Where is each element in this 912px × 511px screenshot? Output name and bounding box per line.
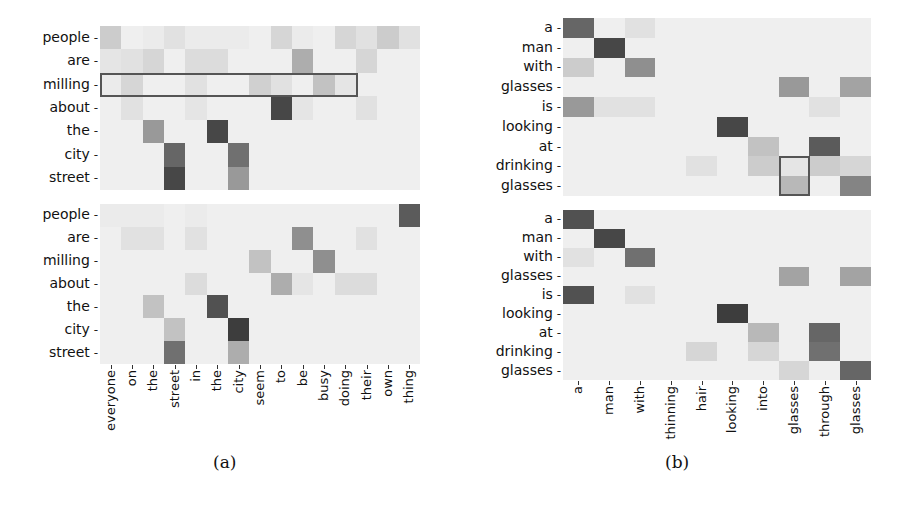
heatmap-cell (686, 229, 717, 248)
heatmap-cell (313, 318, 334, 341)
heatmap-cell (249, 273, 270, 296)
column-label: in (188, 370, 203, 450)
heatmap-cell (748, 229, 779, 248)
heatmap-cell (335, 49, 356, 72)
heatmap-cell (779, 267, 810, 286)
heatmap-cell (717, 267, 748, 286)
heatmap-cell (207, 318, 228, 341)
heatmap-cell (809, 342, 840, 361)
heatmap-cell (563, 248, 594, 267)
heatmap-cell (228, 96, 249, 119)
heatmap-cell (271, 120, 292, 143)
heatmap-cell (207, 143, 228, 166)
heatmap-cell (249, 295, 270, 318)
heatmap-cell (121, 73, 142, 96)
heatmap-cell (399, 73, 420, 96)
heatmap-cell (356, 295, 377, 318)
heatmap-cell (271, 227, 292, 250)
heatmap-cell (313, 120, 334, 143)
heatmap-cell (207, 273, 228, 296)
heatmap-cell (313, 273, 334, 296)
heatmap-cell (840, 304, 871, 323)
heatmap-cell (594, 323, 625, 342)
heatmap-cell (356, 96, 377, 119)
heatmap-cell (121, 167, 142, 190)
row-label: is (542, 99, 561, 113)
heatmap-cell (356, 167, 377, 190)
heatmap-cell (228, 341, 249, 364)
heatmap-cell (143, 341, 164, 364)
heatmap-cell (655, 117, 686, 137)
row-label: milling (43, 253, 98, 267)
heatmap-cell (809, 229, 840, 248)
heatmap-cell (809, 267, 840, 286)
heatmap-cell (164, 204, 185, 227)
heatmap-cell (779, 248, 810, 267)
column-label: the (209, 370, 224, 450)
x-tick (388, 365, 389, 369)
heatmap-cell (292, 120, 313, 143)
heatmap-cell (313, 295, 334, 318)
heatmap-cell (121, 250, 142, 273)
heatmap-cell (207, 120, 228, 143)
heatmap-cell (313, 341, 334, 364)
heatmap-cell (100, 273, 121, 296)
heatmap-cell (121, 143, 142, 166)
heatmap-cell (313, 49, 334, 72)
heatmap-cell (335, 295, 356, 318)
heatmap-cell (594, 77, 625, 97)
heatmap-cell (748, 361, 779, 380)
heatmap-cell (717, 248, 748, 267)
heatmap-cell (377, 73, 398, 96)
column-label: be (295, 370, 310, 450)
heatmap-cell (655, 58, 686, 78)
heatmap-cell (100, 341, 121, 364)
heatmap-cell (779, 361, 810, 380)
row-label: street (49, 170, 98, 184)
heatmap-cell (399, 49, 420, 72)
heatmap-cell (625, 176, 656, 196)
heatmap-cell (809, 304, 840, 323)
row-label: are (67, 53, 98, 67)
heatmap-cell (563, 58, 594, 78)
row-label: is (542, 287, 561, 301)
heatmap-cell (185, 341, 206, 364)
heatmap-cell (121, 318, 142, 341)
heatmap-cell (655, 176, 686, 196)
heatmap-cell (563, 137, 594, 157)
heatmap-cell (313, 96, 334, 119)
heatmap-cell (143, 167, 164, 190)
heatmap-cell (399, 143, 420, 166)
column-label: with (632, 386, 647, 466)
heatmap-cell (100, 73, 121, 96)
heatmap-cell (249, 341, 270, 364)
heatmap-cell (840, 18, 871, 38)
row-label: the (67, 123, 98, 137)
heatmap-cell (399, 120, 420, 143)
heatmap-cell (164, 120, 185, 143)
row-label: looking (502, 306, 561, 320)
heatmap-cell (717, 117, 748, 137)
heatmap-cell (356, 26, 377, 49)
heatmap-cell (717, 342, 748, 361)
x-tick (367, 365, 368, 369)
heatmap-cell (249, 227, 270, 250)
heatmap-cell (655, 342, 686, 361)
heatmap-cell (563, 210, 594, 229)
heatmap-cell (335, 26, 356, 49)
heatmap-cell (271, 73, 292, 96)
row-label: city (64, 322, 98, 336)
heatmap-cell (207, 73, 228, 96)
heatmap-cell (185, 49, 206, 72)
heatmap-cell (717, 304, 748, 323)
heatmap-cell (779, 304, 810, 323)
heatmap-cell (164, 227, 185, 250)
heatmap-cell (143, 204, 164, 227)
x-tick (825, 381, 826, 385)
heatmap-cell (335, 143, 356, 166)
heatmap-cell (655, 18, 686, 38)
row-label: about (49, 100, 98, 114)
heatmap-cell (748, 156, 779, 176)
heatmap-cell (563, 267, 594, 286)
heatmap-cell (655, 267, 686, 286)
